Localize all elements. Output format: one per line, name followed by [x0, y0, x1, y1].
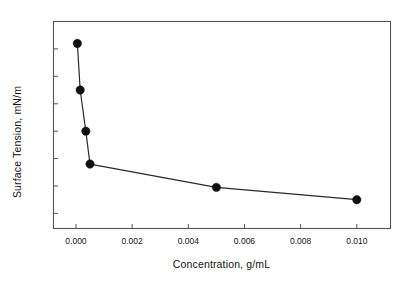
- series-line-surface-tension: [77, 43, 356, 199]
- data-markers: [73, 39, 361, 204]
- data-point-2: [82, 127, 90, 135]
- data-point-1: [76, 86, 84, 94]
- data-line: [77, 43, 356, 199]
- axis-ticks: [54, 22, 357, 229]
- data-point-3: [86, 160, 94, 168]
- data-point-5: [353, 196, 361, 204]
- plot-frame-rect: [54, 22, 391, 229]
- surface-tension-chart: [0, 0, 409, 284]
- data-point-4: [212, 183, 220, 191]
- data-point-0: [73, 39, 81, 47]
- plot-frame: [54, 22, 391, 229]
